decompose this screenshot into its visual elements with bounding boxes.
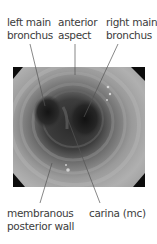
label-carina: carina (mc) bbox=[89, 207, 146, 220]
leader-line-carina bbox=[65, 112, 100, 203]
label-membranous-posterior-wall: membranous posterior wall bbox=[7, 207, 74, 233]
leader-line-membranous-wall bbox=[40, 163, 52, 203]
leader-line-right-main-bronchus bbox=[84, 44, 118, 117]
leader-line-left-main-bronchus bbox=[30, 44, 45, 106]
label-line: carina (mc) bbox=[89, 207, 146, 220]
label-line: posterior wall bbox=[7, 220, 74, 233]
label-line: membranous bbox=[7, 207, 74, 220]
